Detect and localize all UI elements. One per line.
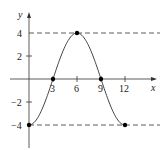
point-9 <box>99 77 103 81</box>
y-axis-label: y <box>17 9 23 20</box>
x-tick-label-3: 3 <box>50 83 55 94</box>
y-tick-label-2: 2 <box>17 51 22 62</box>
chart: y x 3 6 9 12 4 2 −2 −4 <box>0 0 163 150</box>
x-axis-arrow-icon <box>151 77 157 81</box>
x-axis-label: x <box>150 82 156 93</box>
point-3 <box>51 77 55 81</box>
y-tick-label-4: 4 <box>17 28 22 39</box>
y-tick-label-neg4: −4 <box>11 120 22 131</box>
x-tick-label-6: 6 <box>74 83 79 94</box>
y-tick-label-neg2: −2 <box>11 97 22 108</box>
x-tick-label-9: 9 <box>98 83 103 94</box>
x-tick-label-12: 12 <box>119 83 129 94</box>
point-12 <box>123 123 127 127</box>
point-0 <box>27 123 31 127</box>
y-axis-arrow-icon <box>27 12 31 18</box>
point-6 <box>75 31 79 35</box>
